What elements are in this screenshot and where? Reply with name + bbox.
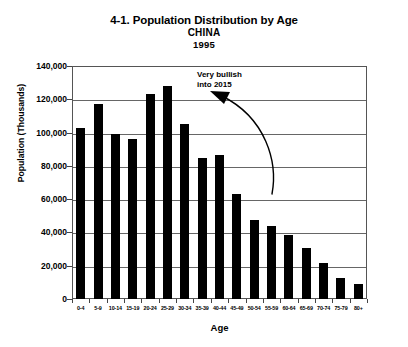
- x-axis-tick-mark: [332, 299, 333, 303]
- bar: [163, 86, 172, 299]
- bar: [180, 124, 189, 299]
- x-axis-tick-mark: [367, 299, 368, 303]
- x-axis-tick-mark: [246, 299, 247, 303]
- x-axis-title: Age: [72, 322, 367, 333]
- bar: [215, 155, 224, 299]
- bar: [319, 263, 328, 299]
- x-axis-tick-label: 80+: [341, 305, 376, 311]
- population-bar-chart: 4-1. Population Distribution by Age CHIN…: [0, 0, 408, 347]
- annotation-label: Very bullish into 2015: [197, 70, 242, 89]
- bar-series: [72, 66, 367, 299]
- x-axis-tick-mark: [228, 299, 229, 303]
- bar: [354, 284, 363, 299]
- bar: [232, 194, 241, 299]
- y-axis-tick-label: 60,000: [5, 194, 67, 204]
- y-axis-tick-label: 20,000: [5, 261, 67, 271]
- x-axis-tick-mark: [280, 299, 281, 303]
- bar: [94, 104, 103, 299]
- bar: [111, 134, 120, 299]
- bar: [250, 220, 259, 299]
- chart-subtitle-year: 1995: [0, 39, 408, 51]
- y-axis-tick-label: 80,000: [5, 161, 67, 171]
- x-axis-tick-mark: [89, 299, 90, 303]
- y-axis-tick-label: 40,000: [5, 227, 67, 237]
- bar: [267, 226, 276, 299]
- x-axis-tick-mark: [350, 299, 351, 303]
- x-axis-tick-mark: [141, 299, 142, 303]
- annotation-line-1: Very bullish: [197, 70, 242, 80]
- y-axis-tick-label: 120,000: [5, 94, 67, 104]
- bar: [198, 158, 207, 299]
- x-axis-tick-mark: [298, 299, 299, 303]
- x-axis-tick-mark: [176, 299, 177, 303]
- bar: [76, 128, 85, 299]
- y-axis-tick-label: 100,000: [5, 128, 67, 138]
- bar: [302, 248, 311, 299]
- x-axis-tick-mark: [193, 299, 194, 303]
- y-axis-tick-label: 0: [5, 294, 67, 304]
- y-axis-tick-label: 140,000: [5, 61, 67, 71]
- bar: [146, 94, 155, 299]
- bar: [336, 278, 345, 299]
- bar: [284, 235, 293, 299]
- x-axis-tick-mark: [72, 299, 73, 303]
- x-axis-tick-mark: [315, 299, 316, 303]
- x-axis-tick-mark: [159, 299, 160, 303]
- x-axis-tick-mark: [263, 299, 264, 303]
- bar: [128, 139, 137, 299]
- x-axis-tick-mark: [124, 299, 125, 303]
- chart-title-block: 4-1. Population Distribution by Age CHIN…: [0, 14, 408, 51]
- x-axis-tick-mark: [211, 299, 212, 303]
- x-axis-tick-mark: [107, 299, 108, 303]
- annotation-line-2: into 2015: [197, 80, 242, 90]
- chart-title: 4-1. Population Distribution by Age: [0, 14, 408, 27]
- chart-subtitle-country: CHINA: [0, 27, 408, 39]
